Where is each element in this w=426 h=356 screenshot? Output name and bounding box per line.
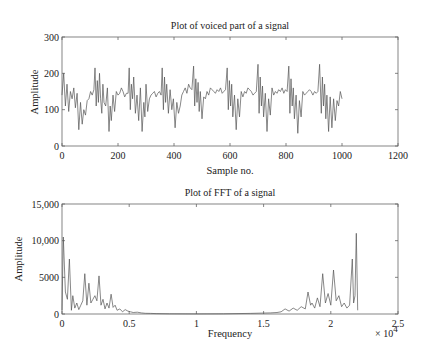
x-multiplier-exponent: 4 xyxy=(393,324,398,334)
figure: Plot of voiced part of a signal 02004006… xyxy=(0,0,426,356)
x-tick-label: 1000 xyxy=(332,150,352,161)
fft-magnitude-line xyxy=(62,233,358,314)
x-tick-label: 400 xyxy=(167,150,182,161)
x-tick-label: 1 xyxy=(194,318,199,329)
y-tick-label: 0 xyxy=(54,141,59,152)
figure-canvas: Plot of voiced part of a signal 02004006… xyxy=(0,0,426,356)
fft-plot: Plot of FFT of a signal 00.511.522.50500… xyxy=(13,187,404,339)
voiced-signal-plot: Plot of voiced part of a signal 02004006… xyxy=(29,20,408,176)
y-tick-label: 5000 xyxy=(39,272,59,283)
bottom-plot-ticks: 00.511.522.50500010,00015,000 xyxy=(32,199,405,330)
x-tick-label: 0 xyxy=(60,150,65,161)
x-tick-label: 600 xyxy=(223,150,238,161)
bottom-plot-xlabel: Frequency xyxy=(208,328,253,339)
x-tick-label: 2 xyxy=(328,318,333,329)
bottom-plot-ylabel: Amplitude xyxy=(13,236,24,281)
x-tick-label: 1200 xyxy=(388,150,408,161)
x-multiplier: × 104 xyxy=(375,324,398,339)
x-tick-label: 1.5 xyxy=(257,318,270,329)
bottom-plot-title: Plot of FFT of a signal xyxy=(185,187,276,198)
x-tick-label: 800 xyxy=(279,150,294,161)
x-tick-label: 0.5 xyxy=(123,318,136,329)
x-tick-label: 200 xyxy=(111,150,126,161)
top-plot-title: Plot of voiced part of a signal xyxy=(171,20,290,31)
top-plot-ylabel: Amplitude xyxy=(29,69,40,114)
x-multiplier-base: × 10 xyxy=(375,328,393,339)
x-tick-label: 0 xyxy=(60,318,65,329)
y-tick-label: 300 xyxy=(44,32,59,43)
top-plot-xlabel: Sample no. xyxy=(206,165,253,176)
voiced-signal-line xyxy=(62,64,342,133)
y-tick-label: 15,000 xyxy=(32,199,60,210)
y-tick-label: 100 xyxy=(44,104,59,115)
y-tick-label: 0 xyxy=(54,309,59,320)
y-tick-label: 200 xyxy=(44,68,59,79)
bottom-plot-axes-box xyxy=(62,204,398,314)
y-tick-label: 10,000 xyxy=(32,235,60,246)
